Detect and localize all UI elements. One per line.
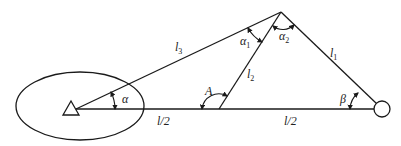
label-alpha1: α1	[240, 34, 250, 50]
label-half-left: l/2	[157, 114, 170, 128]
label-half-right: l/2	[284, 114, 297, 128]
label-alpha: α	[122, 92, 129, 106]
surveying-diagram: l3 l2 l1 α1 α2 α A β l/2 l/2	[0, 0, 401, 146]
target-circle-icon	[374, 101, 390, 117]
label-beta: β	[339, 92, 346, 106]
station-region-ellipse	[16, 72, 144, 140]
label-l3: l3	[175, 40, 182, 56]
angle-alpha-arc	[111, 92, 115, 109]
side-l1	[281, 12, 377, 104]
label-l1: l1	[330, 46, 337, 62]
angle-beta-arc	[350, 93, 358, 109]
label-alpha2: α2	[279, 29, 289, 45]
angle-alpha1-arc	[248, 28, 262, 42]
label-A: A	[204, 84, 213, 98]
label-l2: l2	[247, 67, 254, 83]
